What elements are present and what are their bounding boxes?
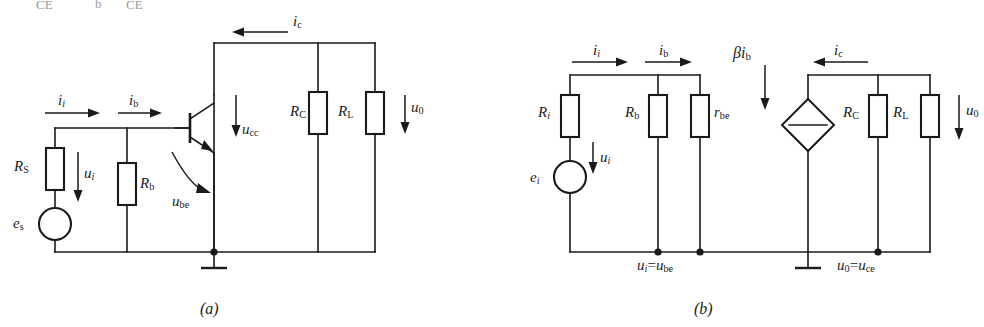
arrow-b-ii-head: [616, 58, 628, 67]
circuit-b-group: [554, 58, 964, 269]
node-dot-b-rb: [654, 248, 661, 255]
label-rc-b: RC: [843, 105, 859, 121]
transistor-emitter-lead-a: [190, 137, 214, 153]
caption-a: (a): [200, 300, 219, 318]
voltage-source-ei-b: [554, 161, 586, 193]
label-beta-ib-b: βib: [733, 45, 751, 62]
arrow-a-u0-head: [401, 122, 410, 134]
arrow-a-ui-head: [74, 190, 83, 202]
arrow-b-ib-head: [680, 58, 692, 67]
arrow-b-beta-ib-head: [761, 98, 770, 110]
label-current-ic-b: ic: [834, 43, 843, 59]
node-dot-b-rbe: [696, 248, 703, 255]
arrow-a-ucc-head: [232, 125, 241, 137]
arrow-b-ic-head: [813, 58, 825, 67]
arrow-a-ii-head: [88, 109, 100, 118]
label-current-ib-a: ib: [129, 93, 138, 109]
arrow-a-ic-head: [232, 28, 244, 37]
label-voltage-u0-b: u0: [966, 103, 979, 119]
label-voltage-ucc-a: ucc: [242, 122, 259, 138]
arrow-b-ui-head: [589, 162, 598, 174]
circuit-a-group: [39, 28, 410, 269]
resistor-rs-a: [46, 148, 64, 190]
label-es-a: es: [13, 216, 24, 232]
caption-b: (b): [694, 300, 713, 318]
label-current-ic-a: ic: [293, 14, 302, 30]
label-rb-a: Rb: [140, 176, 154, 192]
resistor-rl-a: [366, 92, 384, 134]
label-current-ii-b: ii: [593, 43, 600, 59]
transistor-emitter-arrow-a: [201, 140, 213, 151]
arrow-b-u0-head: [955, 128, 964, 140]
voltage-source-es-a: [39, 208, 71, 240]
label-current-ib-b: ib: [659, 43, 668, 59]
arrow-a-ib-head: [150, 109, 162, 118]
transistor-collector-lead-a: [190, 103, 214, 119]
resistor-rb-a: [118, 163, 136, 205]
label-rl-a: RL: [338, 104, 354, 120]
resistor-rc-a: [309, 92, 327, 134]
resistor-rc-b: [869, 95, 887, 137]
label-rb-b: Rb: [625, 105, 639, 121]
figure-root: CE b CE: [0, 0, 984, 327]
label-voltage-ube-a: ube: [172, 194, 189, 210]
label-node-output-b: u0=uce: [837, 258, 875, 274]
label-ei-b: ei: [530, 170, 540, 186]
label-rs-a: RS: [14, 159, 29, 175]
label-ri-b: Ri: [538, 105, 550, 121]
arrow-a-ube-head: [196, 183, 211, 193]
label-voltage-ui-a: ui: [84, 166, 94, 182]
label-current-ii-a: ii: [58, 93, 65, 109]
resistor-rl-b: [921, 95, 939, 137]
label-rl-b: RL: [893, 105, 909, 121]
label-node-input-b: ui=ube: [637, 258, 673, 274]
label-rc-a: RC: [290, 104, 306, 120]
label-voltage-ui-b: ui: [600, 150, 610, 166]
resistor-ri-b: [561, 95, 579, 137]
arrow-a-ube-curve: [172, 152, 202, 190]
label-rbe-b: rbe: [714, 105, 730, 121]
label-voltage-u0-a: u0: [411, 100, 424, 116]
resistor-rb-b: [649, 95, 667, 137]
resistor-rbe-b: [691, 95, 709, 137]
